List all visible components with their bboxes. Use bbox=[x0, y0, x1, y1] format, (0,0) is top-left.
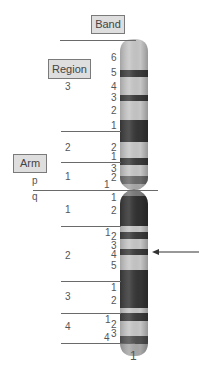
p-arm-label: p bbox=[32, 175, 38, 186]
band-q32: 2 bbox=[111, 296, 117, 306]
p-arm bbox=[118, 38, 150, 193]
band-p11: 1 bbox=[104, 180, 110, 190]
chromosome-number: 1 bbox=[130, 351, 137, 361]
q-arm bbox=[118, 188, 150, 358]
centromere-line bbox=[33, 190, 158, 191]
band-p33: 3 bbox=[111, 93, 117, 103]
region-p3: 3 bbox=[65, 82, 71, 92]
bottom-line bbox=[61, 343, 135, 344]
region-q4: 4 bbox=[65, 322, 71, 332]
band-p34: 4 bbox=[111, 82, 117, 92]
band-q12: 2 bbox=[111, 206, 117, 216]
band-p35: 5 bbox=[111, 68, 117, 78]
q-arm-label: q bbox=[32, 191, 38, 202]
band-q25: 5 bbox=[111, 261, 117, 271]
band-p36: 6 bbox=[111, 53, 117, 63]
band-q41: 1 bbox=[105, 315, 111, 325]
band-q31: 1 bbox=[111, 283, 117, 293]
region-p1: 1 bbox=[65, 172, 71, 182]
band-p12: 2 bbox=[111, 173, 117, 183]
arm-label-box: Arm bbox=[13, 154, 47, 173]
band-q21: 1 bbox=[105, 228, 111, 238]
q-region-3-4-divider bbox=[61, 313, 121, 314]
region-label-box: Region bbox=[48, 59, 91, 79]
p-region-3-2-divider bbox=[61, 131, 121, 132]
band-p31: 1 bbox=[111, 121, 117, 131]
band-label-box: Band bbox=[91, 15, 125, 34]
band-q11: 1 bbox=[111, 193, 117, 203]
band-q24: 4 bbox=[111, 250, 117, 260]
region-q1: 1 bbox=[65, 205, 71, 215]
arrow-icon bbox=[152, 249, 199, 255]
q-region-1-2-divider bbox=[61, 226, 121, 227]
band-q43: 3 bbox=[111, 329, 117, 339]
band-q44: 4 bbox=[104, 333, 110, 343]
region-q2: 2 bbox=[65, 251, 71, 261]
region-q3: 3 bbox=[65, 292, 71, 302]
band-p21: 1 bbox=[111, 152, 117, 162]
region-p2: 2 bbox=[65, 143, 71, 153]
top-line bbox=[60, 40, 136, 41]
band-p32: 2 bbox=[111, 106, 117, 116]
